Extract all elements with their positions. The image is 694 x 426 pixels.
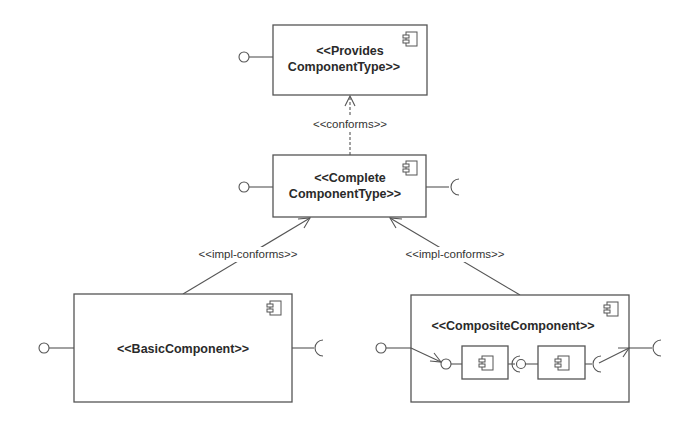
provided-interface-icon xyxy=(239,182,249,192)
required-interface-icon xyxy=(315,340,323,356)
inner-provided-interface-icon xyxy=(441,359,451,369)
impl-conforms-left: <<impl-conforms>> xyxy=(183,218,310,294)
complete-component-type[interactable]: <<Complete ComponentType>> xyxy=(239,155,459,217)
assembly-ball-icon xyxy=(517,360,526,369)
conforms-relation: <<conforms>> xyxy=(300,96,400,155)
provided-interface-icon xyxy=(239,52,249,62)
complete-label-2: ComponentType>> xyxy=(289,187,401,201)
required-interface-icon xyxy=(653,340,661,356)
provides-component-type[interactable]: <<Provides ComponentType>> xyxy=(239,25,427,95)
complete-label-1: <<Complete xyxy=(314,171,386,185)
composite-label: <<CompositeComponent>> xyxy=(431,319,594,333)
basic-component[interactable]: <<BasicComponent>> xyxy=(39,294,323,402)
provides-label-2: ComponentType>> xyxy=(288,60,400,74)
provided-interface-icon xyxy=(376,343,386,353)
provides-label-1: <<Provides xyxy=(316,44,383,58)
provided-interface-icon xyxy=(39,343,49,353)
impl-conforms-label-left: <<impl-conforms>> xyxy=(198,248,297,260)
impl-conforms-label-right: <<impl-conforms>> xyxy=(405,248,504,260)
component-diagram: <<Provides ComponentType>> <<conforms>> … xyxy=(0,0,694,426)
composite-component[interactable]: <<CompositeComponent>> xyxy=(376,295,661,402)
impl-conforms-right: <<impl-conforms>> xyxy=(390,218,520,295)
conforms-label: <<conforms>> xyxy=(313,118,387,130)
basic-label: <<BasicComponent>> xyxy=(117,342,249,356)
required-interface-icon xyxy=(451,179,459,195)
